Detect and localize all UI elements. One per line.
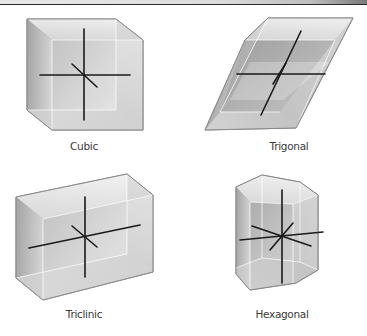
- triclinic-label: Triclinic: [66, 308, 102, 320]
- hexagonal-label: Hexagonal: [255, 308, 308, 320]
- trigonal-label: Trigonal: [270, 140, 309, 152]
- triclinic-crystal: [16, 174, 153, 300]
- hexagonal-crystal: [236, 175, 323, 290]
- cubic-label: Cubic: [70, 140, 98, 152]
- cubic-crystal: [27, 19, 143, 130]
- trigonal-crystal: [205, 18, 353, 130]
- crystal-diagram: [0, 0, 367, 336]
